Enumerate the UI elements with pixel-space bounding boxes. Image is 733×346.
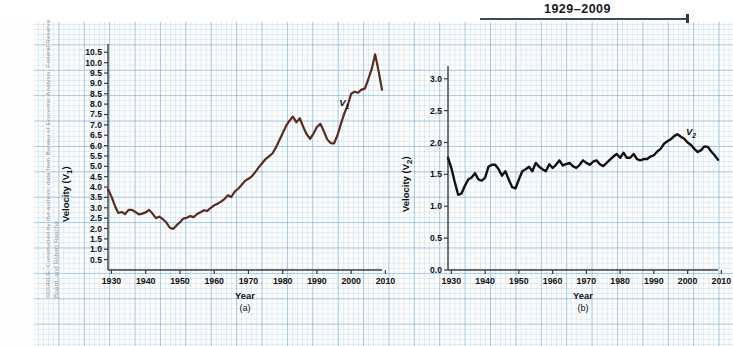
y-tick-label: 10.0	[68, 59, 102, 68]
y-tick-label: 9.0	[68, 79, 102, 88]
y-tick-label: 2.0	[408, 139, 442, 148]
series-label-v2: V2	[686, 126, 696, 139]
x-tick-label: 2000	[675, 277, 701, 286]
x-tick-label: 1960	[540, 277, 566, 286]
y-tick-label: 7.5	[68, 110, 102, 119]
chart-panel-b: Velocity (V2) Year (b) V2 0.00.51.01.52.…	[392, 26, 722, 326]
x-tick-label: 2010	[708, 277, 733, 286]
x-axis-title-b: Year	[448, 290, 718, 301]
y-tick-label: 0.0	[408, 266, 442, 275]
figure-title-block: 1929–2009	[470, 2, 733, 24]
y-tick-label: 1.5	[408, 170, 442, 179]
y-tick-label: 1.0	[68, 245, 102, 254]
x-tick-label: 1950	[506, 277, 532, 286]
y-tick-label: 4.0	[68, 183, 102, 192]
paper-left-margin	[0, 22, 34, 346]
y-tick-label: 8.5	[68, 90, 102, 99]
x-tick-label: 1940	[133, 277, 159, 286]
x-tick-label: 1980	[607, 277, 633, 286]
y-tick-label: 9.5	[68, 69, 102, 78]
panel-letter-a: (a)	[108, 303, 382, 313]
x-tick-label: 1930	[438, 277, 464, 286]
y-tick-label: 2.5	[408, 107, 442, 116]
y-tick-label: 7.0	[68, 121, 102, 130]
series-label-v1-sub: 1	[346, 103, 350, 110]
x-tick-label: 1960	[201, 277, 227, 286]
x-tick-label: 1990	[304, 277, 330, 286]
x-tick-label: 1950	[167, 277, 193, 286]
y-tick-label: 2.0	[68, 225, 102, 234]
x-tick-label: 1980	[270, 277, 296, 286]
y-tick-label: 4.5	[68, 173, 102, 182]
x-tick-label: 1970	[235, 277, 261, 286]
y-tick-label: 3.0	[68, 204, 102, 213]
y-tick-label: 0.5	[68, 256, 102, 265]
y-tick-label: 1.0	[408, 202, 442, 211]
y-tick-label: 10.5	[68, 48, 102, 57]
x-tick-label: 1930	[98, 277, 124, 286]
y-tick-label: 1.5	[68, 235, 102, 244]
y-tick-label: 5.5	[68, 152, 102, 161]
series-label-v2-sub: 2	[692, 132, 696, 139]
x-tick-label: 1940	[472, 277, 498, 286]
y-tick-label: 6.0	[68, 142, 102, 151]
y-tick-label: 3.5	[68, 193, 102, 202]
title-rule-end-cap	[686, 14, 689, 23]
x-tick-label: 1990	[641, 277, 667, 286]
y-tick-label: 6.5	[68, 131, 102, 140]
title-underline-rule	[480, 18, 688, 20]
chart-panel-a: Velocity (V1) Year (a) V1 0.51.01.52.02.…	[46, 26, 386, 326]
panel-letter-b: (b)	[448, 303, 718, 313]
y-tick-label: 2.5	[68, 214, 102, 223]
y-tick-label: 3.0	[408, 75, 442, 84]
series-label-v1: V1	[339, 97, 349, 110]
y-tick-label: 5.0	[68, 162, 102, 171]
page-title: 1929–2009	[470, 2, 685, 16]
x-tick-label: 2000	[338, 277, 364, 286]
y-tick-label: 8.0	[68, 100, 102, 109]
y-tick-label: 0.5	[408, 234, 442, 243]
x-tick-label: 1970	[573, 277, 599, 286]
x-axis-title-a: Year	[108, 290, 382, 301]
